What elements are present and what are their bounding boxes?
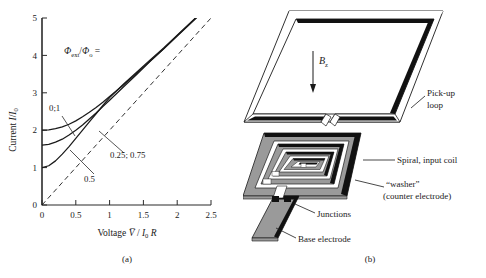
y-tick-label: 2 [33,125,38,135]
iv-chart-svg: 012345 00.511.522.5 Current I/I0 Voltag [0,0,243,278]
y-tick-label: 5 [33,13,38,23]
svg-text:Current I/I0: Current I/I0 [8,107,19,151]
x-axis-title: Voltage V̅ / I0 R [97,228,156,239]
y-tick-label: 3 [33,88,38,98]
squid-diagram-svg: Bz [243,0,486,278]
washer-spiral-stack [243,133,361,199]
label-pickup-loop-line1: Pick-up [427,88,455,98]
label-counter-electrode: (counter electrode) [383,191,451,201]
figure-container: 012345 00.511.522.5 Current I/I0 Voltag [0,0,486,278]
label-base-electrode: Base electrode [298,234,351,244]
x-tick-label: 2 [175,210,180,220]
panel-b-squid-diagram: Bz [243,0,486,278]
y-axis-title: Current I/I0 [8,107,19,151]
svg-text:Voltage V̅ / I0 R: Voltage V̅ / I0 R [97,228,156,239]
curve-label-025-075: 0.25; 0.75 [110,150,146,160]
y-tick-label: 1 [33,163,38,173]
panel-a-caption: (a) [122,254,132,264]
curve-label-0-1: 0;1 [49,103,60,113]
x-tick-label: 0 [40,210,45,220]
x-tick-label: 1 [107,210,112,220]
legend-flux-ratio: Φext/Φo = [64,46,100,58]
label-pickup-loop-line2: loop [427,100,444,110]
label-spiral-input-coil: Spiral, input coil [397,155,458,165]
x-tick-label: 2.5 [205,210,217,220]
chart-curves [42,3,211,205]
x-tick-label: 1.5 [138,210,150,220]
curve-label-05: 0.5 [84,174,96,184]
pickup-loop [244,11,443,126]
label-washer: “washer” [386,179,419,189]
curve-0-5 [42,3,211,167]
x-axis-ticks: 00.511.522.5 [40,200,217,220]
label-junctions: Junctions [317,209,351,219]
y-axis-ticks: 012345 [33,13,48,210]
annotation-leader-lines [62,116,124,174]
panel-b-caption: (b) [365,254,376,264]
curve-0-1 [42,4,211,130]
panel-a-iv-chart: 012345 00.511.522.5 Current I/I0 Voltag [0,0,243,278]
x-tick-label: 0.5 [70,210,82,220]
y-tick-label: 4 [33,51,38,61]
y-tick-label: 0 [33,200,38,210]
